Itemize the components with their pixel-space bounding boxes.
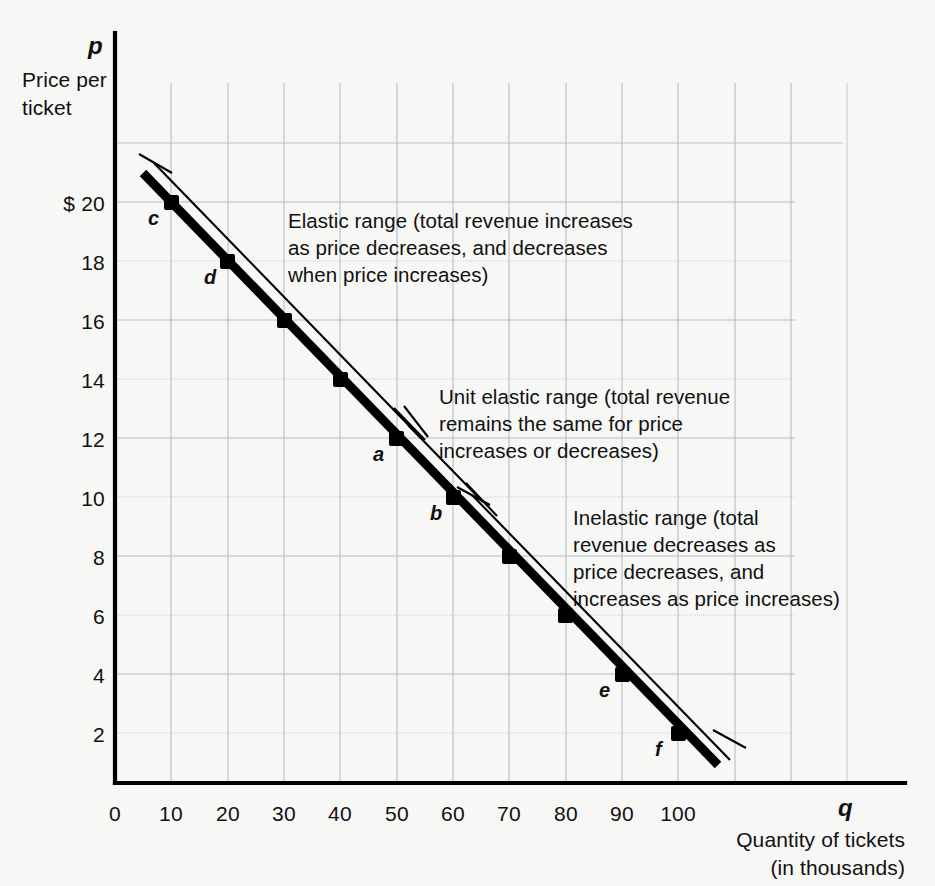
x-axis-symbol: q (838, 792, 898, 823)
y-tick-8: 8 (5, 544, 105, 571)
x-tick-90: 90 (592, 800, 652, 827)
x-tick-100: 100 (648, 800, 708, 827)
y-axis-caption-line1: Price per (22, 66, 107, 93)
annotation-unit-elastic-line3: increases or decreases) (439, 437, 659, 464)
point-q40 (333, 372, 348, 387)
point-label-d: d (204, 264, 216, 290)
x-tick-80: 80 (536, 800, 596, 827)
x-tick-10: 10 (141, 800, 201, 827)
x-tick-50: 50 (367, 800, 427, 827)
y-tick-4: 4 (5, 662, 105, 689)
point-label-e: e (599, 677, 610, 703)
point-label-b: b (430, 500, 442, 526)
y-tick-10: 10 (5, 485, 105, 512)
point-f (671, 726, 686, 741)
point-c (164, 195, 179, 210)
point-label-f: f (655, 736, 662, 762)
point-b (446, 490, 461, 505)
x-axis-caption-line1: Quantity of tickets (540, 826, 905, 853)
x-tick-60: 60 (423, 800, 483, 827)
annotation-inelastic-line3: price decreases, and (573, 558, 764, 585)
point-d (220, 254, 235, 269)
y-axis-caption-line2: ticket (22, 94, 72, 121)
annotation-inelastic-line1: Inelastic range (total (573, 504, 759, 531)
y-tick-2: 2 (5, 721, 105, 748)
x-tick-40: 40 (310, 800, 370, 827)
x-axis-caption-line2: (in thousands) (540, 854, 905, 881)
point-a (389, 431, 404, 446)
y-tick-12: 12 (5, 426, 105, 453)
annotation-elastic-line2: as price decreases, and decreases (288, 234, 608, 261)
x-tick-70: 70 (479, 800, 539, 827)
point-q70 (502, 549, 517, 564)
annotation-unit-elastic-line1: Unit elastic range (total revenue (439, 383, 730, 410)
y-tick-18: 18 (5, 249, 105, 276)
x-tick-20: 20 (198, 800, 258, 827)
point-label-a: a (373, 441, 384, 467)
y-axis-symbol: p (88, 30, 103, 61)
point-q80 (558, 608, 573, 623)
annotation-inelastic-line2: revenue decreases as (573, 531, 776, 558)
y-tick-20: $ 20 (5, 190, 105, 217)
annotation-elastic-line3: when price increases) (288, 261, 488, 288)
annotation-unit-elastic-line2: remains the same for price (439, 410, 683, 437)
annotation-inelastic-line4: increases as price increases) (573, 585, 840, 612)
point-label-c: c (148, 205, 159, 231)
x-tick-0: 0 (85, 800, 145, 827)
x-tick-30: 30 (254, 800, 314, 827)
point-q30 (277, 313, 292, 328)
y-tick-16: 16 (5, 308, 105, 335)
point-e (615, 667, 630, 682)
y-tick-6: 6 (5, 603, 105, 630)
annotation-elastic-line1: Elastic range (total revenue increases (288, 207, 633, 234)
y-tick-14: 14 (5, 367, 105, 394)
chart-canvas: p Price per ticket $ 20 18 16 14 12 10 8… (0, 0, 935, 886)
